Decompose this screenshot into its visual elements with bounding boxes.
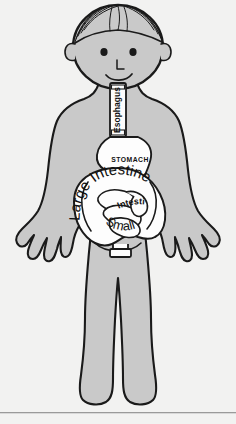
label-esophagus: Esophagus [112, 87, 122, 133]
page-divider-shadow [0, 413, 236, 414]
rectum [110, 249, 131, 257]
head [73, 5, 163, 89]
left-eye [100, 48, 107, 56]
left-ear-icon [65, 43, 75, 60]
right-eye [129, 48, 136, 56]
right-ear-icon [161, 43, 171, 60]
digestive-system-diagram: Esophagus STOMACH Large Intestine Intest… [0, 0, 236, 424]
